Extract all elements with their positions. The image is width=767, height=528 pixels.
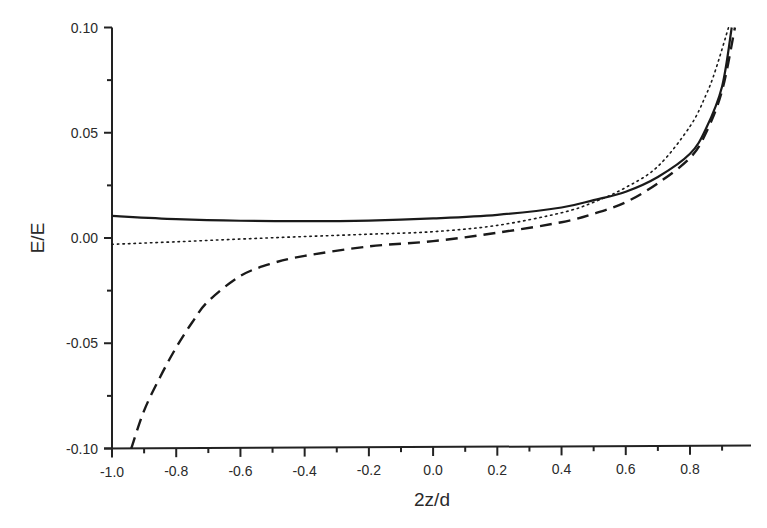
x-tick-label: 0.0	[423, 462, 443, 478]
x-axis-line	[104, 446, 751, 449]
y-tick-label: 0.00	[71, 230, 98, 246]
x-tick-label: -1.0	[100, 464, 124, 480]
curve-solid	[112, 28, 732, 222]
y-tick-label: 0.05	[71, 125, 98, 141]
x-tick-label: -0.4	[293, 463, 317, 479]
x-tick-label: 0.4	[552, 461, 572, 477]
x-tick-label: -0.2	[357, 462, 381, 478]
y-tick-label: -0.10	[66, 441, 98, 457]
x-tick-label: 0.8	[680, 461, 700, 477]
y-axis-title: E/E	[27, 223, 48, 254]
x-axis-title: 2z/d	[414, 489, 450, 510]
x-axis-ticks: -1.0-0.8-0.6-0.4-0.20.00.20.40.60.8	[100, 446, 722, 480]
axes	[104, 28, 751, 449]
x-tick-label: 0.6	[616, 461, 636, 477]
y-axis-ticks: 0.100.050.00-0.05-0.10	[66, 20, 112, 457]
plot-curves	[112, 28, 735, 449]
y-tick-label: 0.10	[71, 20, 98, 36]
curve-dashed	[131, 28, 735, 449]
x-tick-label: -0.8	[164, 463, 188, 479]
x-tick-label: -0.6	[228, 463, 252, 479]
x-tick-label: 0.2	[488, 462, 508, 478]
y-tick-label: -0.05	[66, 335, 98, 351]
curve-dotted	[112, 28, 729, 245]
chart: 0.100.050.00-0.05-0.10 -1.0-0.8-0.6-0.4-…	[0, 0, 767, 528]
